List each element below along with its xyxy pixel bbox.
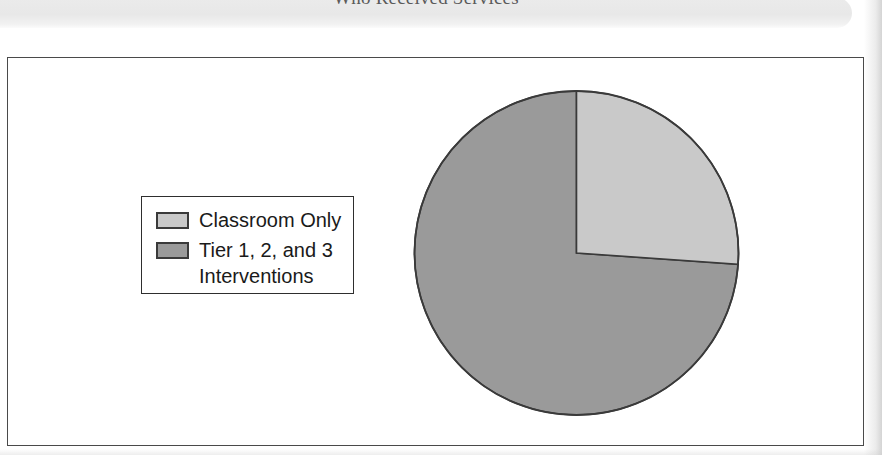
chart-frame: Classroom Only Tier 1, 2, and 3 Interven…	[7, 57, 864, 446]
legend-label-tier-interventions: Tier 1, 2, and 3 Interventions	[199, 237, 333, 289]
pie-slice-classroom-only[interactable]	[577, 91, 739, 264]
page-edge-shading-right	[864, 0, 882, 455]
page-title: Who Received Services	[0, 0, 852, 11]
legend-item-classroom-only[interactable]: Classroom Only	[142, 207, 353, 233]
legend-item-tier-interventions[interactable]: Tier 1, 2, and 3 Interventions	[142, 237, 353, 289]
page-edge-shading-bottom	[0, 449, 882, 455]
pie-chart	[8, 58, 865, 447]
legend-swatch-classroom-only	[156, 212, 189, 229]
legend-swatch-tier-interventions	[156, 242, 189, 259]
pie-chart-svg	[8, 58, 865, 447]
legend-label-classroom-only: Classroom Only	[199, 207, 341, 233]
chart-legend: Classroom Only Tier 1, 2, and 3 Interven…	[141, 196, 354, 294]
